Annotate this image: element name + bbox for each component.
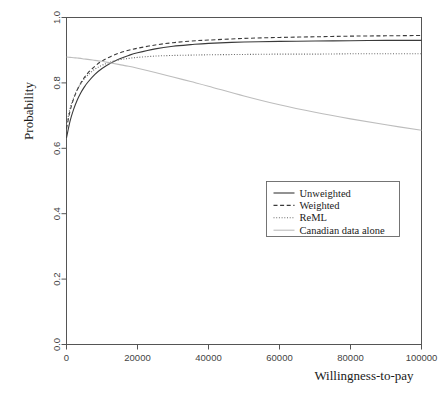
y-tick-label: 0.6 bbox=[51, 142, 62, 155]
y-axis-title: Probability bbox=[21, 82, 36, 140]
x-tick-label: 60000 bbox=[266, 352, 292, 363]
series-line-1 bbox=[67, 35, 422, 128]
y-tick-label: 0.8 bbox=[51, 76, 62, 89]
probability-line-chart: UnweightedWeightedReMLCanadian data alon… bbox=[0, 0, 438, 400]
curves-layer bbox=[67, 35, 422, 137]
y-tick-label: 0.2 bbox=[51, 272, 62, 285]
x-tick-label: 0 bbox=[64, 352, 69, 363]
x-tick-label: 20000 bbox=[124, 352, 150, 363]
legend-label-1: Weighted bbox=[300, 200, 341, 211]
y-tick-label: 1.0 bbox=[51, 11, 62, 24]
x-tick-label: 100000 bbox=[406, 352, 438, 363]
series-line-0 bbox=[67, 40, 422, 137]
legend-label-0: Unweighted bbox=[300, 188, 352, 199]
y-tick-label: 0.0 bbox=[51, 338, 62, 351]
x-tick-label: 80000 bbox=[337, 352, 363, 363]
series-line-3 bbox=[67, 57, 422, 130]
y-tick-label: 0.4 bbox=[51, 207, 62, 220]
legend-label-2: ReML bbox=[300, 212, 327, 223]
x-axis-title: Willingness-to-pay bbox=[314, 368, 414, 383]
x-tick-label: 40000 bbox=[195, 352, 221, 363]
chart-figure: UnweightedWeightedReMLCanadian data alon… bbox=[0, 0, 438, 400]
plot-frame bbox=[67, 18, 422, 345]
legend-label-3: Canadian data alone bbox=[300, 225, 385, 236]
legend-layer: UnweightedWeightedReMLCanadian data alon… bbox=[267, 182, 400, 237]
